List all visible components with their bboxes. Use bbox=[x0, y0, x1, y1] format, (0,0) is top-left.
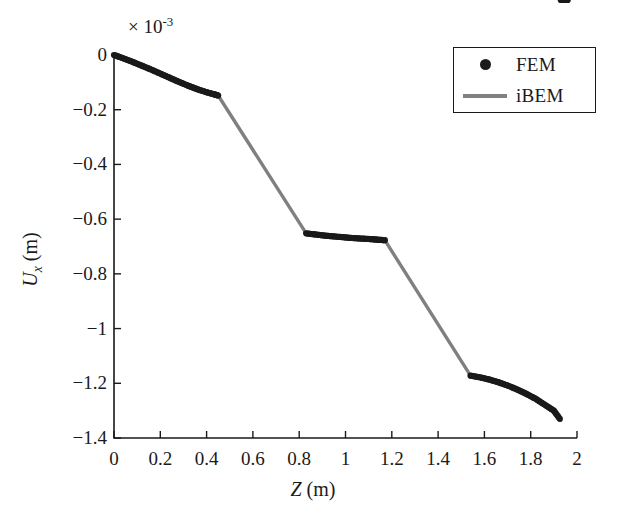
y-axis-symbol: Ux bbox=[19, 266, 41, 287]
x-axis-unit: (m) bbox=[307, 478, 336, 500]
y-tick-label: −0.8 bbox=[37, 263, 107, 285]
y-tick-label: −1.2 bbox=[37, 372, 107, 394]
x-axis-title: Z (m) bbox=[0, 478, 626, 501]
y-tick-label: −0.2 bbox=[37, 99, 107, 121]
legend-marker-circle-icon bbox=[454, 59, 516, 70]
y-tick-label: −0.6 bbox=[37, 208, 107, 230]
x-axis-symbol: Z bbox=[290, 478, 301, 500]
y-axis-title: Ux (m) bbox=[19, 180, 46, 340]
legend-label-ibem: iBEM bbox=[516, 85, 564, 107]
legend-item-fem[interactable]: FEM bbox=[454, 48, 595, 81]
y-tick-marks bbox=[114, 55, 121, 438]
legend-marker-line-icon bbox=[454, 94, 516, 98]
y-axis-exponent-label: × 10-3 bbox=[128, 14, 173, 38]
y-tick-label: −0.4 bbox=[37, 153, 107, 175]
x-tick-label: 2 bbox=[547, 448, 607, 470]
legend: FEM iBEM bbox=[453, 47, 596, 113]
y-tick-label: −1 bbox=[37, 318, 107, 340]
y-tick-label: 0 bbox=[37, 44, 107, 66]
y-tick-label: −1.4 bbox=[37, 427, 107, 449]
legend-item-ibem[interactable]: iBEM bbox=[454, 79, 595, 112]
y-axis-unit: (m) bbox=[19, 232, 41, 261]
exponent-mantissa: × 10 bbox=[128, 16, 162, 37]
chart-figure: × 10-3 0−0.2−0.4−0.6−0.8−1−1.2−1.4 00.20… bbox=[0, 0, 626, 513]
exponent-power: -3 bbox=[162, 14, 173, 29]
legend-label-fem: FEM bbox=[516, 54, 556, 76]
x-tick-marks bbox=[114, 431, 577, 438]
